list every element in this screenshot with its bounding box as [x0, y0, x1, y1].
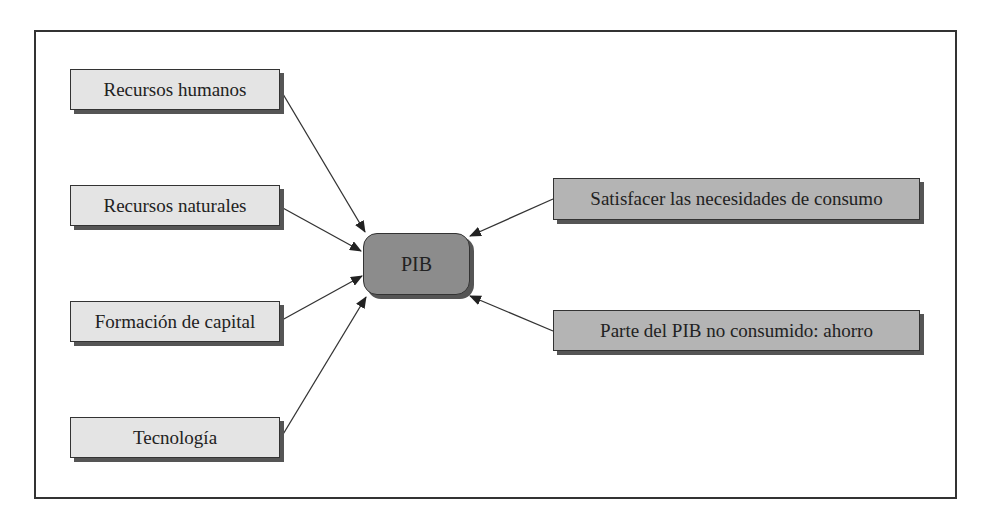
input-formacion-capital: Formación de capital: [70, 301, 280, 342]
arrow-consumo: [470, 199, 553, 236]
pib-node: PIB: [363, 233, 470, 295]
arrow-tecnologia: [282, 297, 366, 436]
arrow-recursos-naturales: [281, 207, 361, 251]
arrow-recursos-humanos: [280, 89, 365, 232]
input-recursos-humanos: Recursos humanos: [70, 69, 280, 110]
arrow-ahorro: [470, 296, 553, 331]
arrow-formacion-capital: [282, 276, 362, 320]
input-recursos-naturales: Recursos naturales: [70, 185, 280, 226]
use-ahorro: Parte del PIB no consumido: ahorro: [553, 310, 920, 351]
use-satisfacer-consumo: Satisfacer las necesidades de consumo: [553, 178, 920, 220]
input-tecnologia: Tecnología: [70, 417, 280, 458]
